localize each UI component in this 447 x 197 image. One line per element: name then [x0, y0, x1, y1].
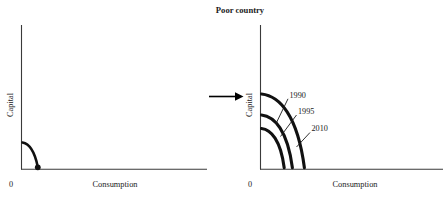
- panel-before-x-axis-label: Consumption: [92, 180, 138, 189]
- figure-canvas: Poor country Capital Consumption 0: [0, 0, 447, 197]
- series-label-1990: 1990: [290, 91, 306, 100]
- panel-before-y-axis-label: Capital: [6, 92, 15, 117]
- panel-before-origin-label: 0: [9, 180, 13, 189]
- panel-before-frontier-curve: [23, 143, 38, 167]
- series-label-2010: 2010: [312, 124, 328, 133]
- panel-after-y-axis-label: Capital: [245, 92, 254, 117]
- panel-after-x-axis-label: Consumption: [332, 180, 378, 189]
- panel-before: Capital Consumption 0: [6, 25, 207, 189]
- right-arrow-icon: [209, 92, 244, 101]
- panel-after-frontier-curve-1990: [262, 129, 285, 168]
- figure-title: Poor country: [216, 5, 265, 15]
- panel-after: 1990 1995 2010 Capital Consumption 0: [245, 25, 443, 189]
- panel-after-origin-label: 0: [248, 180, 252, 189]
- figure-root: Poor country Capital Consumption 0: [0, 0, 447, 197]
- panel-before-frontier-endpoint-marker: [35, 164, 41, 170]
- series-label-1995: 1995: [298, 107, 314, 116]
